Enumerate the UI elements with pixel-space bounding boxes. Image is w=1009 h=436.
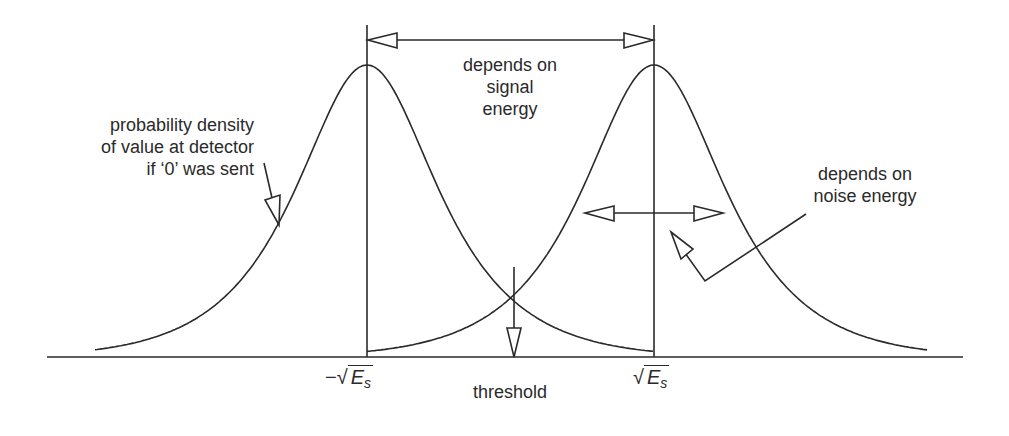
prob-density-line-1: probability density: [60, 114, 254, 136]
neg-sqrt-es-label: −√Es: [325, 365, 373, 394]
threshold-arrowhead-icon: [507, 328, 521, 357]
radicand: Es: [348, 365, 373, 394]
pos-sqrt-es-label: √Es: [633, 365, 669, 394]
noise-energy-arrowhead-right-icon: [694, 206, 723, 221]
noise-energy-arrowhead-left-icon: [585, 206, 614, 221]
energy-subscript: s: [364, 375, 371, 391]
neg-sqrt-symbol: −√: [325, 366, 348, 388]
pos-sqrt-symbol: √: [633, 366, 644, 388]
signal-energy-line-2: signal: [440, 76, 580, 98]
noise-energy-label: depends on noise energy: [795, 163, 935, 207]
signal-energy-arrowhead-right-icon: [624, 33, 653, 48]
prob-density-arrow-shaft: [264, 163, 272, 198]
noise-leader-line: [685, 214, 806, 281]
noise-energy-line-1: depends on: [795, 163, 935, 185]
energy-subscript: s: [660, 375, 667, 391]
noise-leader-arrowhead-icon: [671, 232, 693, 259]
prob-density-label: probability density of value at detector…: [60, 114, 254, 180]
signal-energy-arrowhead-left-icon: [368, 33, 397, 48]
threshold-label: threshold: [473, 381, 547, 403]
prob-density-line-3: if ‘0’ was sent: [60, 158, 254, 180]
energy-symbol: E: [351, 366, 364, 388]
radicand: Es: [644, 365, 669, 394]
noise-energy-line-2: noise energy: [795, 185, 935, 207]
prob-density-arrowhead-icon: [265, 195, 280, 225]
signal-energy-line-1: depends on: [440, 54, 580, 76]
signal-energy-line-3: energy: [440, 98, 580, 120]
signal-energy-label: depends on signal energy: [440, 54, 580, 120]
energy-symbol: E: [647, 366, 660, 388]
prob-density-line-2: of value at detector: [60, 136, 254, 158]
